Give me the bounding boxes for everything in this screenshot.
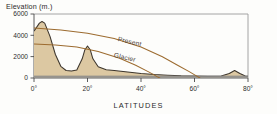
elevation-latitude-chart: Elevation (m.) LATITUDES 6000 4000 2000 …	[0, 0, 277, 114]
y-tick-label-0: 0	[2, 74, 28, 81]
y-axis-ticks	[31, 14, 35, 78]
y-tick-label-4000: 4000	[2, 32, 28, 39]
x-tick-label-0: 0°	[21, 85, 47, 92]
sea-level-band	[34, 76, 248, 78]
x-axis-title: LATITUDES	[0, 101, 277, 110]
y-tick-label-6000: 6000	[2, 10, 28, 17]
x-axis-ticks	[34, 78, 248, 82]
terrain-profile-area	[34, 22, 248, 79]
x-tick-label-80: 80°	[235, 85, 261, 92]
x-tick-label-60: 60°	[182, 85, 208, 92]
x-tick-label-20: 20°	[75, 85, 101, 92]
y-tick-label-2000: 2000	[2, 53, 28, 60]
chart-plot-area	[0, 0, 277, 114]
x-tick-label-40: 40°	[128, 85, 154, 92]
